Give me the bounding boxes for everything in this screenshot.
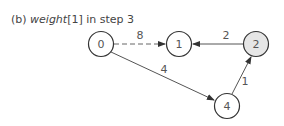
node-label-1: 1 [176, 38, 183, 51]
graph-diagram: 8 2 4 1 0 1 2 4 [0, 0, 284, 126]
edge-2-1: 2 [193, 29, 243, 44]
node-4: 4 [215, 94, 240, 119]
node-label-0: 0 [98, 38, 105, 51]
edge-4-2: 1 [232, 57, 251, 94]
node-label-2: 2 [253, 38, 260, 51]
node-0: 0 [89, 32, 114, 57]
edge-weight-4-2: 1 [242, 75, 249, 88]
node-2: 2 [244, 32, 269, 57]
edge-weight-2-1: 2 [223, 29, 230, 42]
edge-weight-0-4: 4 [161, 63, 168, 76]
node-1: 1 [167, 32, 192, 57]
node-label-4: 4 [224, 100, 231, 113]
edge-weight-0-1: 8 [137, 29, 144, 42]
edge-0-4: 4 [111, 52, 214, 100]
edge-0-1: 8 [114, 29, 165, 44]
